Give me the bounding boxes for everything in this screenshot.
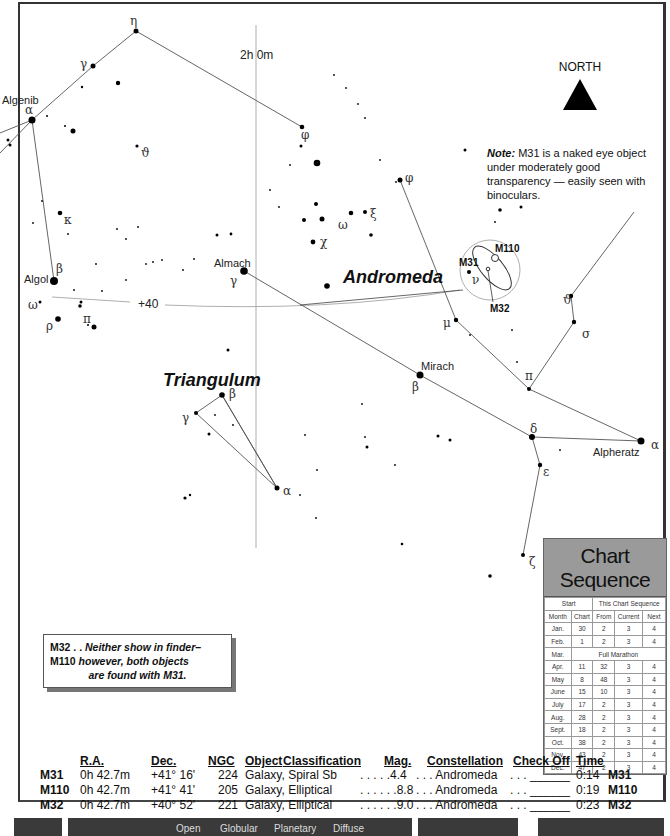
sequence-row: Feb.1234 [545,635,666,648]
object-cell-dec: +41° 41' [151,783,195,797]
greek-omega-per: ω [28,298,38,312]
header-time: Time [576,754,604,768]
sequence-cell: 2 [593,711,615,724]
sequence-cell: July [545,698,572,711]
object-cell-ngc: 221 [218,798,238,812]
sequence-cell: Apr. [545,660,572,673]
object-cell-con: . . . Andromeda [416,768,497,782]
check-off-field[interactable]: . . . ______ [510,783,570,797]
sequence-cell: 4 [642,723,665,736]
greek-delta: δ [530,422,537,436]
dec-label: +40 [138,297,158,311]
sequence-cell: Jan. [545,623,572,636]
object-cell-time: 0:14 [576,768,599,782]
sequence-cell: 4 [642,711,665,724]
greek-alpha-and: α [651,438,659,452]
greek-nu: ν [472,273,479,287]
m32-marker [486,267,490,271]
greek-sigma: σ [582,327,590,341]
sequence-row: July17234 [545,698,666,711]
sequence-cell: 8 [571,673,593,686]
sequence-cell: 48 [593,673,615,686]
object-cell-ra: 0h 42.7m [80,783,130,797]
header-classification: Classification [283,754,361,768]
object-cell-cls: Galaxy, Spiral Sb [245,768,337,782]
sequence-cell: May [545,673,572,686]
footer-block-center: Open Globular Planetary Diffuse [68,818,412,836]
greek-kappa: κ [64,213,72,227]
sequence-cell: 4 [642,673,665,686]
sequence-cell: 1 [571,635,593,648]
star-label-algol: Algol [24,273,48,285]
object-cell-con: . . . Andromeda [416,783,497,797]
object-cell-tag: M32 [608,798,631,812]
greek-gamma-tri: γ [182,411,189,425]
greek-beta-per: β [56,262,63,276]
object-label-m31: M31 [459,257,478,268]
sequence-cell: 17 [571,698,593,711]
star-label-mirach: Mirach [421,360,454,372]
object-cell-cls: Galaxy, Elliptical [245,783,332,797]
sequence-month: Mar. [545,648,572,661]
object-cell-mag: . . . . . .9.0 [360,798,413,812]
greek-alpha-tri: α [283,484,291,498]
north-arrow-icon [563,79,597,110]
constellation-andromeda: Andromeda [343,267,443,288]
sequence-cell: 3 [615,673,643,686]
sequence-note: Full Marathon [571,648,665,661]
header-ngc: NGC [208,754,235,768]
constellation-triangulum: Triangulum [163,370,261,391]
chart-sequence-rows: Jan.30234Feb.1234Mar.Full MarathonApr.11… [545,623,666,774]
greek-theta-peg: ϑ [141,146,150,160]
greek-beta-and: β [412,380,419,394]
sequence-row: June151034 [545,686,666,699]
header-constellation: Constellation [427,754,503,768]
greek-xi: ξ [370,207,377,221]
stars [7,29,645,578]
greek-phi-peg: φ [301,128,309,142]
footer-block-left [14,818,62,836]
greek-phi-and: φ [405,171,413,185]
sequence-cell: 4 [642,698,665,711]
sequence-cell: 4 [642,736,665,749]
greek-zeta: ζ [529,555,536,569]
star-label-alpheratz: Alpheratz [593,446,639,458]
sequence-row: Aug.28234 [545,711,666,724]
object-cell-mag: . . . . . .8.8 [360,783,413,797]
sequence-cell: 32 [593,660,615,673]
sequence-cell: 18 [571,723,593,736]
object-cell-ra: 0h 42.7m [80,768,130,782]
greek-theta-and: ϑ [563,293,572,307]
header-mag: Mag. [384,754,411,768]
sequence-cell: 3 [615,711,643,724]
star-label-almach: Almach [214,257,251,269]
check-off-field[interactable]: . . . ______ [510,798,570,812]
sequence-cell: 2 [593,698,615,711]
sequence-cell: 15 [571,686,593,699]
object-cell-id: M32 [40,798,63,812]
finder-note-line1: Neither show in finder– [85,641,201,653]
m110-marker [492,255,499,262]
object-cell-mag: . . . . .4.4 [360,768,407,782]
sequence-cell: 3 [615,723,643,736]
header-dec: Dec. [151,754,176,768]
check-off-field[interactable]: . . . ______ [510,768,570,782]
footer-block-center2 [418,818,518,836]
header-ra: R.A. [80,754,104,768]
greek-eta: η [130,14,137,28]
footer-label-diffuse: Diffuse [333,823,364,834]
sequence-cell: 11 [571,660,593,673]
sequence-row: Mar.Full Marathon [545,648,666,661]
sequence-cell: Aug. [545,711,572,724]
sequence-cell: 2 [593,635,615,648]
ra-label: 2h 0m [240,48,273,62]
object-cell-dec: +41° 16' [151,768,195,782]
sequence-row: Jan.30234 [545,623,666,636]
finder-note-obj-m110: M110 [50,655,79,667]
greek-gamma-peg: γ [80,57,87,71]
sequence-cell: Sept. [545,723,572,736]
group-header-start: Start [545,598,593,611]
sequence-cell: 3 [615,698,643,711]
greek-epsilon: ε [543,465,549,479]
sequence-cell: 3 [615,686,643,699]
